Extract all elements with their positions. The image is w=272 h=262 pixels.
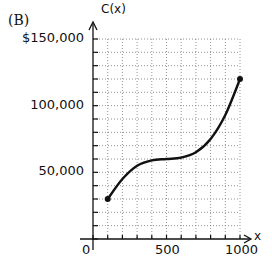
cost-curve [108, 79, 240, 199]
endpoint-dot [105, 196, 111, 202]
endpoint-markers [105, 76, 243, 202]
endpoint-dot [237, 76, 243, 82]
grid-lines [93, 39, 240, 239]
chart-plot-area [0, 0, 272, 262]
